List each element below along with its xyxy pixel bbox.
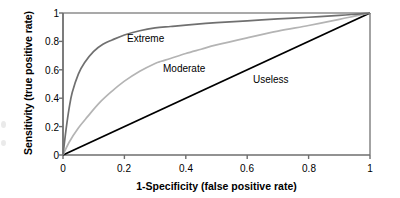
curve-label-extreme: Extreme <box>127 33 164 44</box>
curve-label-useless: Useless <box>253 74 289 85</box>
roc-curve-useless <box>63 13 370 155</box>
roc-curve-figure: Sensitivity (true positive rate) 1-Speci… <box>0 0 400 198</box>
curve-label-moderate: Moderate <box>163 63 205 74</box>
plot-area <box>0 0 400 198</box>
